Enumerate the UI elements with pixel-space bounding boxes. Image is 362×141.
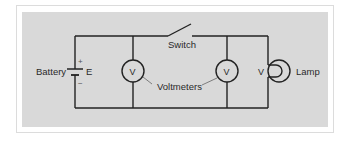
leader-line-vm1	[143, 77, 152, 84]
circuit-diagram: Battery + − E Switch V V Voltmeters V La…	[0, 0, 362, 141]
voltmeter-2-letter: V	[224, 67, 230, 77]
switch-lever	[168, 24, 191, 36]
lamp-voltage-letter: V	[258, 67, 264, 77]
battery-label: Battery	[36, 66, 66, 77]
lamp-bulb	[268, 60, 290, 82]
voltmeters-label: Voltmeters	[157, 81, 202, 92]
leader-line-vm2	[202, 78, 217, 85]
switch-label: Switch	[168, 39, 196, 50]
lamp-label: Lamp	[296, 66, 320, 77]
emf-label: E	[86, 66, 92, 77]
lamp-filament	[268, 65, 282, 77]
battery-plus-sign: +	[78, 57, 83, 66]
battery-minus-sign: −	[78, 79, 83, 88]
voltmeter-1-letter: V	[130, 67, 136, 77]
